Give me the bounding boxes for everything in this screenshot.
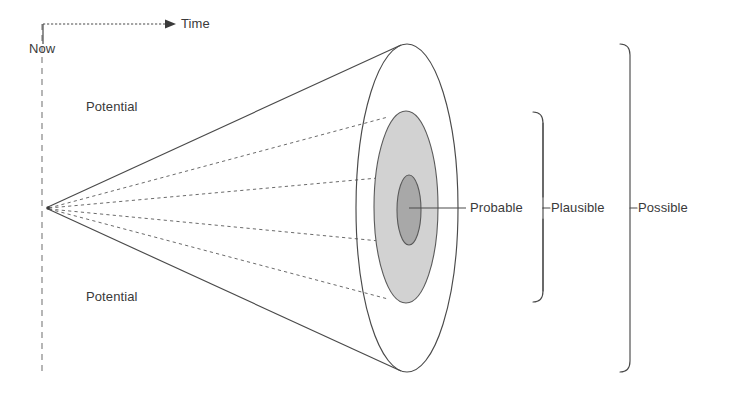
cone-dashed-ray-2: [49, 176, 400, 208]
potential-label-top: Potential: [86, 99, 138, 114]
cone-dashed-rays: [49, 117, 400, 299]
time-axis-label: Time: [181, 16, 210, 31]
possible-bracket-path: [620, 44, 630, 372]
possible-bracket: [620, 44, 637, 372]
futures-cone-svg: [0, 0, 731, 395]
cone-dashed-ray-3: [49, 209, 400, 243]
time-axis-arrow: [43, 20, 176, 45]
cone-dashed-ray-4: [49, 209, 388, 299]
cone-dashed-ray-1: [49, 117, 388, 208]
cone-edge-upper: [48, 45, 401, 207]
plausible-bracket-path: [533, 112, 543, 302]
probable-ellipse: [397, 175, 421, 245]
futures-cone-figure: Time Now Potential Potential Probable Pl…: [0, 0, 731, 395]
arrow-right-icon: [165, 20, 176, 29]
potential-label-bottom: Potential: [86, 289, 138, 304]
cone-apex-point: [46, 206, 50, 210]
possible-label: Possible: [638, 200, 688, 215]
now-label: Now: [29, 41, 55, 56]
probable-label: Probable: [470, 200, 523, 215]
plausible-bracket: [533, 112, 550, 302]
plausible-label: Plausible: [551, 200, 605, 215]
cone-solid-edges: [48, 45, 401, 371]
